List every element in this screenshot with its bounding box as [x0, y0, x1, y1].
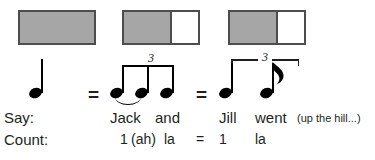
count-syllable-ah: (ah) — [131, 132, 156, 146]
note-stem — [122, 65, 124, 93]
equals-sign-1: = — [88, 85, 99, 104]
box-segment-filled — [230, 12, 276, 43]
say-word-and: and — [155, 110, 180, 125]
note-stem — [41, 59, 43, 93]
note-stem — [147, 65, 149, 93]
say-word-jack: Jack — [110, 110, 141, 125]
count-syllable-la: la — [164, 132, 175, 146]
note-stem — [172, 65, 174, 93]
tuplet-number: 3 — [262, 51, 268, 63]
say-word-jill: Jill — [219, 110, 237, 125]
say-trailing-note: (up the hill...) — [297, 113, 361, 124]
count-syllable-1: 1 — [120, 132, 128, 146]
duration-box-1 — [18, 10, 96, 45]
count-label: Count: — [4, 132, 48, 147]
tuplet-number: 3 — [148, 52, 154, 64]
duration-box-3 — [228, 10, 306, 45]
box-segment-empty — [276, 12, 304, 43]
eighth-note-flag — [271, 61, 287, 85]
count-equals-sign: = — [196, 132, 204, 146]
tie-slur — [115, 97, 141, 105]
tuplet-bracket-left — [231, 59, 258, 61]
say-word-went: went — [255, 110, 287, 125]
equals-sign-2: = — [196, 85, 207, 104]
say-label: Say: — [4, 110, 34, 125]
box-segment-empty — [170, 12, 198, 43]
note-stem — [231, 63, 233, 93]
box-segment-filled — [124, 12, 170, 43]
count-syllable-la-b: la — [255, 132, 266, 146]
tuplet-bracket-tick — [298, 59, 300, 66]
box-segment-filled — [20, 12, 94, 43]
duration-box-2 — [122, 10, 200, 45]
count-syllable-1-b: 1 — [219, 132, 227, 146]
notation-row: = 3 = 3 — [0, 55, 375, 105]
